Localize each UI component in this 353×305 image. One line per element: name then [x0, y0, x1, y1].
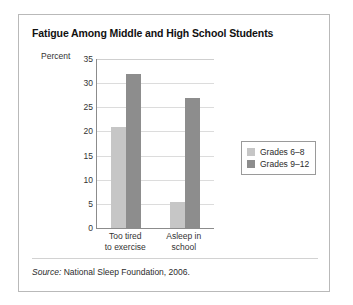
bar: [126, 74, 141, 229]
y-axis-tick-label: 0: [88, 223, 93, 233]
x-axis-category-label-line: Asleep in: [166, 231, 201, 242]
bar-group: [170, 59, 200, 228]
x-axis-category-label-line: to exercise: [105, 242, 146, 253]
bar: [170, 202, 185, 228]
source-label: Source:: [32, 267, 61, 277]
legend-label: Grades 9–12: [260, 159, 309, 169]
bar-group: [111, 59, 141, 228]
figure-card: Fatigue Among Middle and High School Stu…: [18, 14, 330, 292]
source-divider: [32, 258, 318, 259]
chart-legend: Grades 6–8Grades 9–12: [241, 141, 316, 175]
x-axis-category-labels: Too tiredto exerciseAsleep inschool: [96, 231, 213, 261]
y-axis-tick-label: 20: [84, 126, 93, 136]
bar: [111, 127, 126, 228]
x-axis-category-label: Asleep inschool: [166, 231, 201, 252]
legend-item: Grades 9–12: [247, 158, 309, 170]
legend-swatch-icon: [247, 160, 255, 168]
bars-layer: [97, 59, 214, 228]
x-axis-category-label-line: school: [166, 242, 201, 253]
x-axis-category-label: Too tiredto exercise: [105, 231, 146, 252]
y-axis-tick-label: 35: [84, 54, 93, 64]
x-axis-category-label-line: Too tired: [105, 231, 146, 242]
bar: [185, 98, 200, 228]
legend-label: Grades 6–8: [260, 147, 304, 157]
y-axis-label: Percent: [41, 51, 70, 61]
y-axis-tick-label: 30: [84, 78, 93, 88]
source-note: Source: National Sleep Foundation, 2006.: [32, 267, 190, 277]
y-axis-tick-label: 5: [88, 199, 93, 209]
y-axis-tick-label: 10: [84, 175, 93, 185]
source-value: National Sleep Foundation, 2006.: [61, 267, 190, 277]
chart-title: Fatigue Among Middle and High School Stu…: [32, 27, 273, 39]
y-axis-tick-label: 15: [84, 151, 93, 161]
plot-area: 05101520253035: [96, 59, 214, 229]
legend-item: Grades 6–8: [247, 146, 309, 158]
y-axis-tick-label: 25: [84, 102, 93, 112]
legend-swatch-icon: [247, 148, 255, 156]
